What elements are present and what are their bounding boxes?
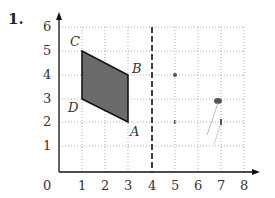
x-tick-7: 7 (217, 178, 225, 193)
x-tick-6: 6 (194, 178, 202, 193)
x-tick-4: 4 (148, 178, 156, 193)
x-tick-0: 0 (43, 178, 51, 193)
x-tick-5: 5 (171, 178, 179, 193)
y-tick-5: 5 (43, 43, 51, 58)
y-axis-arrow-icon (56, 12, 62, 20)
y-tick-1: 1 (43, 138, 51, 153)
y-tick-6: 6 (43, 19, 51, 34)
vertex-label-c: C (70, 34, 80, 49)
y-tick-2: 2 (43, 114, 51, 129)
vertex-label-b: B (131, 61, 142, 76)
pencil-marks (173, 73, 222, 145)
coordinate-grid: 1 2 3 4 5 6 0 1 2 3 4 5 6 7 8 C B A D (0, 0, 275, 198)
x-axis-arrow-icon (252, 169, 260, 175)
vertex-label-d: D (67, 100, 79, 115)
x-tick-3: 3 (124, 178, 132, 193)
y-tick-3: 3 (43, 91, 51, 106)
y-tick-4: 4 (43, 67, 51, 82)
vertex-label-a: A (129, 124, 139, 139)
x-tick-2: 2 (101, 178, 109, 193)
x-tick-8: 8 (240, 178, 248, 193)
x-tick-1: 1 (78, 178, 86, 193)
